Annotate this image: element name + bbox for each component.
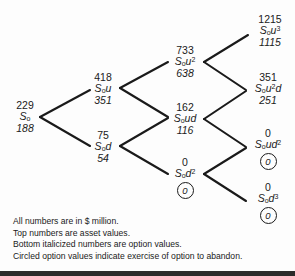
node-uu: 733 Sou2 638 xyxy=(166,45,204,79)
node-udd-option-value-circled: 0 xyxy=(260,153,277,170)
node-uuu-option-value: 1115 xyxy=(250,37,290,48)
branch-dd-up xyxy=(204,148,246,174)
branch-root-down xyxy=(40,117,90,146)
legend-line-units: All numbers are in $ million. xyxy=(13,216,242,228)
node-ddd: 0 Sod3 0 xyxy=(245,182,291,224)
branch-u-up xyxy=(120,62,168,88)
node-ddd-label: Sod3 xyxy=(245,193,291,205)
node-ud: 162 Soud 116 xyxy=(166,102,204,136)
node-udd: 0 Soud2 0 xyxy=(245,128,291,170)
node-uud-option-value: 251 xyxy=(245,95,291,106)
branch-d-up xyxy=(120,118,168,146)
branch-ud-down xyxy=(204,119,246,147)
node-udd-label: Soud2 xyxy=(245,139,291,151)
branch-dd-down xyxy=(204,174,246,201)
legend-line-circled: Circled option values indicate exercise … xyxy=(13,251,242,263)
legend-line-top-numbers: Top numbers are asset values. xyxy=(13,228,242,240)
binomial-lattice-figure: 229 So 188 418 Sou 351 75 Sod 54 733 Sou… xyxy=(0,0,295,276)
node-ddd-option-value-circled: 0 xyxy=(260,207,277,224)
branch-ud-up xyxy=(204,91,246,119)
node-u-option-value: 351 xyxy=(86,95,120,106)
figure-legend: All numbers are in $ million. Top number… xyxy=(13,216,242,262)
node-root: 229 So 188 xyxy=(8,100,42,134)
node-dd-label: Sod2 xyxy=(166,168,204,180)
node-uuu: 1215 Sou3 1115 xyxy=(250,14,290,48)
legend-line-bottom-numbers: Bottom italicized numbers are option val… xyxy=(13,239,242,251)
node-root-option-value: 188 xyxy=(8,123,42,134)
node-u: 418 Sou 351 xyxy=(86,72,120,106)
node-dd: 0 Sod2 0 xyxy=(166,157,204,199)
node-u-asset-value: 418 xyxy=(86,72,120,83)
node-uu-option-value: 638 xyxy=(166,68,204,79)
bottom-divider xyxy=(0,271,295,276)
branch-d-down xyxy=(120,146,168,174)
branch-uu-up xyxy=(204,35,248,62)
branch-uu-down xyxy=(204,62,246,90)
node-dd-option-value-circled: 0 xyxy=(177,182,194,199)
node-d-asset-value: 75 xyxy=(86,130,120,141)
branch-root-up xyxy=(40,90,90,117)
node-d-option-value: 54 xyxy=(86,153,120,164)
node-ud-option-value: 116 xyxy=(166,125,204,136)
node-d: 75 Sod 54 xyxy=(86,130,120,164)
branch-u-down xyxy=(120,88,168,117)
node-uud: 351 Sou2d 251 xyxy=(245,72,291,106)
